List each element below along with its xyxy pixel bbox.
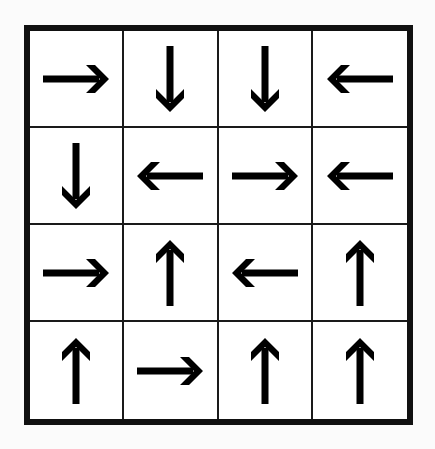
grid-cell-r3-c1 (30, 225, 124, 322)
arrow-down-icon (40, 140, 112, 212)
arrow-right-icon (40, 237, 112, 309)
grid-cell-r1-c3 (219, 31, 313, 128)
arrow-right-icon (134, 335, 206, 407)
grid-cell-r2-c1 (30, 128, 124, 225)
arrow-up-icon (324, 335, 396, 407)
arrow-left-icon (134, 140, 206, 212)
grid-cell-r2-c3 (219, 128, 313, 225)
arrow-left-icon (324, 140, 396, 212)
grid-cell-r2-c4 (313, 128, 407, 225)
arrow-down-icon (134, 43, 206, 115)
grid-cell-r3-c4 (313, 225, 407, 322)
grid-cell-r2-c2 (124, 128, 218, 225)
arrow-up-icon (134, 237, 206, 309)
arrow-up-icon (324, 237, 396, 309)
arrow-left-icon (324, 43, 396, 115)
arrow-left-icon (229, 237, 301, 309)
arrow-up-icon (40, 335, 112, 407)
arrow-down-icon (229, 43, 301, 115)
arrow-right-icon (229, 140, 301, 212)
grid-cell-r1-c1 (30, 31, 124, 128)
grid-cell-r4-c3 (219, 322, 313, 419)
grid-cell-r1-c2 (124, 31, 218, 128)
grid-cell-r3-c3 (219, 225, 313, 322)
grid-cell-r3-c2 (124, 225, 218, 322)
grid-cell-r4-c4 (313, 322, 407, 419)
arrow-grid (24, 25, 413, 425)
arrow-right-icon (40, 43, 112, 115)
grid-cell-r1-c4 (313, 31, 407, 128)
grid-cell-r4-c1 (30, 322, 124, 419)
grid-cell-r4-c2 (124, 322, 218, 419)
arrow-up-icon (229, 335, 301, 407)
